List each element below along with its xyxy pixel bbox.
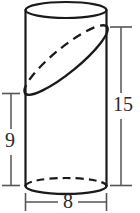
dimension-left-9: 9 <box>2 94 20 186</box>
cylinder-bottom-back-arc-hidden <box>26 178 107 186</box>
cylinder-top-rim-ellipse <box>26 2 107 18</box>
cylinder-figure: 9 15 8 <box>0 0 140 213</box>
cut-back-arc-hidden <box>17 17 107 93</box>
cut-front-arc <box>25 27 115 103</box>
dimension-label-right: 15 <box>113 93 133 115</box>
cylinder-diagram-svg: 9 15 8 <box>0 0 140 213</box>
dimension-label-left: 9 <box>5 129 15 151</box>
oblique-cut <box>17 17 115 103</box>
dimension-label-bottom: 8 <box>63 190 73 212</box>
cylinder-body <box>26 2 107 194</box>
dimension-right-15: 15 <box>110 27 133 186</box>
